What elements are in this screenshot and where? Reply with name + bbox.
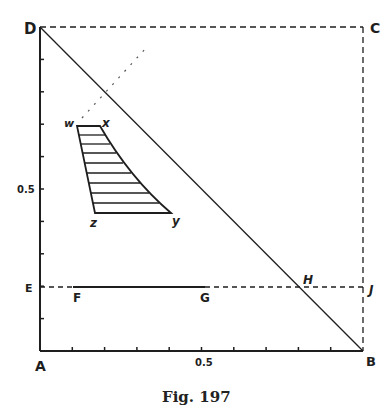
trapezoid-outline xyxy=(77,126,171,213)
label-C: C xyxy=(370,20,380,36)
hatch-lines xyxy=(79,135,159,203)
y-axis-label-0.5: 0.5 xyxy=(17,184,35,195)
label-w: w xyxy=(64,117,75,130)
label-A: A xyxy=(35,358,46,374)
figure-caption: Fig. 197 xyxy=(162,388,231,406)
label-F: F xyxy=(73,291,81,305)
label-J: J xyxy=(367,283,374,297)
dotted-line xyxy=(82,48,146,118)
label-G: G xyxy=(200,291,210,305)
x-axis-label-0.5: 0.5 xyxy=(195,357,213,368)
label-z: z xyxy=(89,216,98,230)
label-E: E xyxy=(25,282,33,295)
label-y: y xyxy=(172,214,181,228)
label-B: B xyxy=(366,354,376,369)
label-D: D xyxy=(24,20,36,38)
label-x: x xyxy=(101,116,111,130)
label-H: H xyxy=(303,273,313,287)
hatched-region xyxy=(77,126,171,213)
diagram-figure: D C A B E F G H J w x z y 0.5 0.5 Fig. 1… xyxy=(0,0,392,412)
